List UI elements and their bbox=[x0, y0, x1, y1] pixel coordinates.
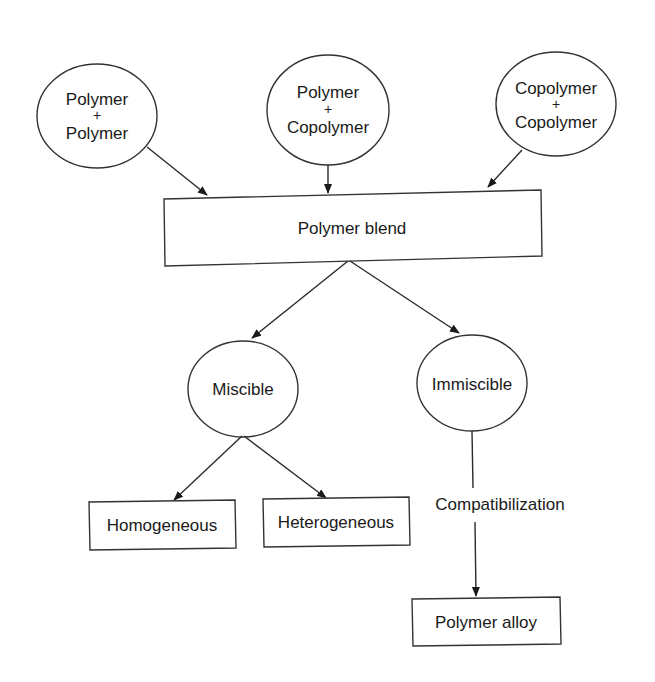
homogeneous-node: Homogeneous bbox=[89, 500, 236, 550]
edge-miscible-to-homogeneous bbox=[174, 436, 242, 500]
heterogeneous-label: Heterogeneous bbox=[278, 513, 394, 532]
edge-blend-to-miscible bbox=[252, 261, 348, 338]
plus-icon: + bbox=[552, 96, 560, 112]
polymer-blend-label: Polymer blend bbox=[298, 219, 407, 238]
polymer-blend-diagram: Polymer + Polymer Polymer + Copolymer Co… bbox=[0, 0, 655, 682]
edge-miscible-to-heterogeneous bbox=[244, 436, 326, 498]
miscible-label: Miscible bbox=[212, 380, 273, 399]
plus-icon: + bbox=[93, 107, 101, 123]
plus-icon: + bbox=[324, 101, 332, 117]
edge-source3-to-blend bbox=[488, 150, 522, 187]
edge-compatibilization-to-alloy bbox=[475, 522, 476, 596]
immiscible-label: Immiscible bbox=[432, 375, 512, 394]
source-node-polymer-copolymer: Polymer + Copolymer bbox=[267, 55, 389, 165]
heterogeneous-node: Heterogeneous bbox=[263, 497, 410, 547]
source-2-line1: Polymer bbox=[297, 83, 360, 102]
homogeneous-label: Homogeneous bbox=[107, 516, 218, 535]
source-3-line2: Copolymer bbox=[515, 113, 598, 132]
immiscible-node: Immiscible bbox=[417, 335, 527, 431]
polymer-alloy-node: Polymer alloy bbox=[412, 597, 561, 646]
edge-blend-to-immiscible bbox=[350, 261, 459, 333]
miscible-node: Miscible bbox=[188, 341, 298, 437]
edge-source1-to-blend bbox=[147, 147, 207, 195]
source-1-line2: Polymer bbox=[66, 124, 129, 143]
source-node-polymer-polymer: Polymer + Polymer bbox=[37, 64, 157, 168]
compatibilization-label: Compatibilization bbox=[435, 495, 564, 514]
edge-immiscible-to-compatibilization bbox=[472, 431, 473, 488]
source-2-line2: Copolymer bbox=[287, 118, 370, 137]
source-node-copolymer-copolymer: Copolymer + Copolymer bbox=[496, 52, 616, 156]
polymer-alloy-label: Polymer alloy bbox=[435, 613, 538, 632]
polymer-blend-node: Polymer blend bbox=[164, 190, 542, 266]
